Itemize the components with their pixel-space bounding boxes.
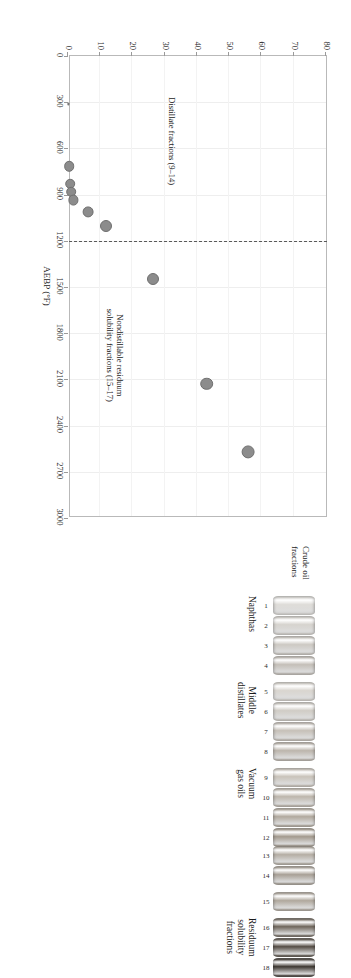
annotation-line: Distillate fractions (9–14) bbox=[167, 97, 178, 185]
y-gridline bbox=[196, 56, 197, 516]
vial-number-2: 2 bbox=[264, 622, 268, 630]
x-tick-label: 900 bbox=[55, 187, 65, 200]
data-point-13 bbox=[68, 195, 79, 206]
scatter-chart: AEBP (°F) Micro carbon residue (wt.%) 03… bbox=[0, 0, 351, 540]
vial-10: 10 bbox=[273, 788, 315, 807]
vial-5: 5 bbox=[273, 682, 315, 701]
group-label-line: fractions bbox=[224, 918, 235, 957]
x-tick-label: 0 bbox=[55, 53, 65, 57]
y-tick-label: 70 bbox=[290, 42, 300, 51]
x-gridline bbox=[70, 102, 326, 103]
vial-1: 1 bbox=[273, 596, 315, 615]
vial-number-10: 10 bbox=[263, 794, 270, 802]
x-tick-label: 2700 bbox=[55, 462, 65, 479]
vial-number-1: 1 bbox=[264, 602, 268, 610]
x-tick-label: 1500 bbox=[55, 278, 65, 295]
vial-number-12: 12 bbox=[263, 834, 270, 842]
y-tick bbox=[67, 52, 68, 56]
group-label-line: Naphthas bbox=[246, 596, 257, 632]
vial-group-middle-distillates: 5678 bbox=[273, 682, 315, 762]
y-tick-label: 50 bbox=[225, 42, 235, 51]
vial-9: 9 bbox=[273, 768, 315, 787]
x-gridline bbox=[70, 472, 326, 473]
y-tick bbox=[196, 52, 197, 56]
vial-number-7: 7 bbox=[264, 728, 268, 736]
y-gridline bbox=[228, 56, 229, 516]
x-tick-label: 2100 bbox=[55, 370, 65, 387]
y-gridline bbox=[164, 56, 165, 516]
crude-oil-header-line1: Crude oil bbox=[300, 546, 311, 592]
crude-oil-fractions-header: Crude oil fractions bbox=[289, 546, 311, 592]
vial-number-11: 11 bbox=[263, 814, 270, 822]
y-tick-label: 40 bbox=[193, 42, 203, 51]
vial-4: 4 bbox=[273, 656, 315, 675]
annotation-line: Nondistillable residuum bbox=[114, 309, 125, 402]
group-label-line: distillates bbox=[235, 682, 246, 718]
x-tick-label: 2400 bbox=[55, 416, 65, 433]
vial-group-residuum-single: 15 bbox=[273, 892, 315, 912]
y-tick bbox=[132, 52, 133, 56]
annotation-line: solubility fractions (15–17) bbox=[104, 309, 115, 402]
x-gridline bbox=[70, 287, 326, 288]
group-label-line: Vacuum bbox=[246, 768, 257, 799]
y-tick bbox=[228, 52, 229, 56]
vial-14: 14 bbox=[273, 866, 315, 885]
y-tick-label: 60 bbox=[258, 42, 268, 51]
vial-18: 18 bbox=[273, 958, 315, 977]
y-tick bbox=[293, 52, 294, 56]
vial-3: 3 bbox=[273, 636, 315, 655]
vial-number-13: 13 bbox=[263, 852, 270, 860]
y-tick-label: 0 bbox=[64, 46, 74, 50]
y-tick-label: 80 bbox=[322, 42, 332, 51]
y-tick-label: 10 bbox=[96, 42, 106, 51]
vial-number-18: 18 bbox=[263, 964, 270, 972]
y-tick bbox=[99, 52, 100, 56]
vial-number-3: 3 bbox=[264, 642, 268, 650]
group-label-line: gas oils bbox=[235, 768, 246, 799]
vial-group-vacuum-gas-oils: 9101112 bbox=[273, 768, 315, 848]
vial-16: 16 bbox=[273, 918, 315, 937]
vial-number-8: 8 bbox=[264, 748, 268, 756]
nondistillable-annotation: Nondistillable residuumsolubility fracti… bbox=[104, 309, 125, 402]
y-tick bbox=[325, 52, 326, 56]
plot-area bbox=[69, 55, 327, 517]
group-label-line: solubility bbox=[235, 918, 246, 957]
vial-group-label-vacuum-gas-oils: Vacuumgas oils bbox=[235, 768, 257, 799]
x-gridline bbox=[70, 195, 326, 196]
data-point-10 bbox=[64, 161, 74, 171]
vial-number-14: 14 bbox=[263, 872, 270, 880]
vial-11: 11 bbox=[273, 808, 315, 827]
vial-12: 12 bbox=[273, 828, 315, 847]
data-point-18 bbox=[241, 445, 254, 458]
vial-number-16: 16 bbox=[263, 924, 270, 932]
vial-number-9: 9 bbox=[264, 774, 268, 782]
vial-group-residuum-solubility-fractions: 161718 bbox=[273, 918, 315, 978]
vial-8: 8 bbox=[273, 742, 315, 761]
x-axis-title: AEBP (°F) bbox=[42, 55, 52, 517]
vial-number-17: 17 bbox=[263, 944, 270, 952]
y-gridline bbox=[132, 56, 133, 516]
x-tick-label: 1800 bbox=[55, 324, 65, 341]
vial-7: 7 bbox=[273, 722, 315, 741]
data-point-16 bbox=[147, 273, 159, 285]
data-point-17 bbox=[200, 378, 212, 390]
vial-13: 13 bbox=[273, 846, 315, 865]
vial-group-label-residuum-solubility-fractions: Residuumsolubilityfractions bbox=[224, 918, 257, 957]
y-tick bbox=[261, 52, 262, 56]
y-gridline bbox=[99, 56, 100, 516]
distillable-divider bbox=[69, 241, 327, 242]
y-tick-label: 30 bbox=[161, 42, 171, 51]
group-label-line: Middle bbox=[246, 682, 257, 718]
distillate-fractions-annotation: Distillate fractions (9–14) bbox=[167, 97, 178, 185]
vial-15: 15 bbox=[273, 892, 315, 911]
vial-2: 2 bbox=[273, 616, 315, 635]
vial-number-4: 4 bbox=[264, 662, 268, 670]
y-tick bbox=[164, 52, 165, 56]
y-gridline bbox=[261, 56, 262, 516]
data-point-15 bbox=[100, 220, 112, 232]
x-tick-label: 3000 bbox=[55, 509, 65, 526]
vial-group-label-naphthas: Naphthas bbox=[246, 596, 257, 632]
vial-group-vacuum-gas-oils-heavy: 1314 bbox=[273, 846, 315, 886]
group-label-line: Residuum bbox=[246, 918, 257, 957]
